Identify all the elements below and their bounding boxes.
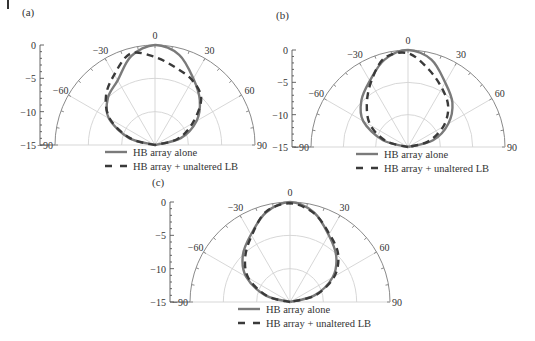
panel-label: (b): [276, 9, 289, 22]
grid-spoke: [290, 215, 340, 302]
legend: HB array aloneHB array + unaltered LB: [238, 304, 371, 329]
radial-label: −5: [25, 73, 36, 84]
angle-label: 60: [244, 85, 254, 96]
angle-label: −30: [93, 45, 109, 56]
angle-tick: [226, 225, 228, 227]
angle-tick: [324, 99, 327, 101]
polar-plot-a: (a)−90−60−3003060900−5−10−15HB array alo…: [20, 6, 267, 172]
grid-spoke: [105, 58, 155, 145]
radial-label: 0: [283, 45, 288, 56]
angle-tick: [239, 95, 242, 97]
angle-tick: [246, 111, 249, 112]
angle-tick: [364, 238, 366, 240]
angle-tick: [57, 128, 60, 129]
angle-label: 30: [205, 45, 215, 56]
angle-tick: [468, 73, 470, 75]
page-corner-mark: [7, 0, 9, 9]
polar-plots-canvas: (a)−90−60−3003060900−5−10−15HB array alo…: [0, 0, 535, 341]
angle-label: 0: [406, 35, 411, 46]
radial-label: −10: [272, 110, 288, 121]
angle-tick: [455, 63, 457, 66]
angle-tick: [312, 130, 315, 131]
legend-dashed-label: HB array + unaltered LB: [133, 161, 238, 172]
angle-tick: [105, 58, 107, 61]
angle-tick: [240, 215, 242, 218]
angle-tick: [501, 130, 504, 131]
angle-label: 90: [507, 142, 517, 153]
angle-label: −60: [308, 88, 324, 99]
polar-plot-b: (b)−90−60−3003060900−5−10−15HB array alo…: [272, 9, 517, 174]
angle-tick: [256, 208, 257, 211]
angle-tick: [213, 238, 215, 240]
legend: HB array aloneHB array + unaltered LB: [105, 147, 238, 172]
legend-dashed-label: HB array + unaltered LB: [384, 163, 489, 174]
panel-label: (c): [152, 176, 165, 189]
radial-label: 0: [31, 40, 36, 51]
angle-tick: [489, 99, 492, 101]
angle-tick: [323, 208, 324, 211]
angle-tick: [440, 56, 441, 59]
angle-tick: [138, 47, 139, 50]
figure: (a)−90−60−3003060900−5−10−15HB array alo…: [0, 0, 535, 341]
angle-label: 30: [456, 49, 466, 60]
radial-label: −5: [277, 77, 288, 88]
radial-label: 0: [161, 197, 166, 208]
legend-solid-label: HB array alone: [384, 149, 448, 160]
angle-label: −30: [347, 49, 363, 60]
angle-tick: [78, 81, 80, 83]
angle-tick: [480, 85, 482, 87]
angle-label: 60: [495, 88, 505, 99]
angle-tick: [188, 51, 189, 54]
angle-tick: [229, 81, 231, 83]
legend: HB array aloneHB array + unaltered LB: [356, 149, 489, 174]
angle-tick: [217, 68, 219, 70]
angle-tick: [91, 68, 93, 70]
panel-label: (a): [22, 6, 35, 19]
angle-tick: [204, 58, 206, 61]
angle-tick: [374, 252, 377, 254]
angle-label: 30: [340, 202, 350, 213]
radial-label: −10: [150, 264, 166, 275]
angle-label: 0: [288, 187, 293, 198]
angle-label: 90: [257, 140, 267, 151]
angle-label: −30: [228, 202, 244, 213]
angle-tick: [352, 225, 354, 227]
angle-label: 60: [379, 242, 389, 253]
legend-solid-label: HB array alone: [133, 147, 197, 158]
radial-label: −10: [20, 107, 36, 118]
angle-tick: [339, 215, 341, 218]
angle-tick: [386, 285, 389, 286]
angle-label: −90: [172, 297, 188, 308]
angle-tick: [61, 111, 64, 112]
angle-tick: [360, 63, 362, 66]
angle-tick: [317, 114, 320, 115]
angle-tick: [203, 252, 206, 254]
radial-label: −15: [150, 297, 166, 308]
angle-tick: [192, 285, 195, 286]
angle-tick: [375, 56, 376, 59]
angle-tick: [346, 73, 348, 75]
angle-label: −90: [293, 142, 309, 153]
angle-tick: [381, 268, 384, 269]
angle-tick: [334, 85, 336, 87]
angle-tick: [496, 114, 499, 115]
grid-spoke: [240, 215, 290, 302]
angle-tick: [196, 268, 199, 269]
angle-tick: [68, 95, 71, 97]
angle-label: 90: [392, 297, 402, 308]
radial-label: −15: [20, 140, 36, 151]
radial-label: −15: [272, 142, 288, 153]
angle-tick: [121, 51, 122, 54]
angle-label: −60: [188, 242, 204, 253]
legend-dashed-label: HB array + unaltered LB: [266, 318, 371, 329]
angle-label: 0: [153, 30, 158, 41]
angle-label: −60: [53, 85, 69, 96]
radial-label: −5: [155, 230, 166, 241]
polar-plot-c: (c)−90−60−3003060900−5−10−15HB array alo…: [150, 176, 402, 329]
angle-tick: [251, 128, 254, 129]
legend-solid-label: HB array alone: [266, 304, 330, 315]
